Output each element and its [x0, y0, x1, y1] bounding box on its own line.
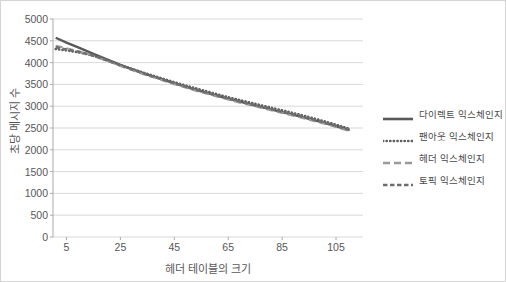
legend-item-label: 헤더 익스체인지 — [419, 154, 485, 164]
x-axis-title: 헤더 테이블의 크기 — [53, 260, 363, 276]
y-axis-tick-label: 4500 — [25, 35, 48, 47]
series-lines — [53, 19, 363, 237]
legend-item[interactable]: 토픽 익스체인지 — [383, 170, 506, 192]
y-axis-tick-label: 3000 — [25, 100, 48, 112]
y-axis-title: 초당 메시지 수 — [6, 56, 22, 186]
x-axis-tick-label: 5 — [64, 241, 70, 253]
series-line — [56, 47, 350, 129]
x-axis-tick-label: 65 — [222, 241, 234, 253]
legend-item[interactable]: 다이렉트 익스체인지 — [383, 104, 506, 126]
legend-item[interactable]: 헤더 익스체인지 — [383, 148, 506, 170]
y-axis-tick-label: 3500 — [25, 78, 48, 90]
chart-legend: 다이렉트 익스체인지팬아웃 익스체인지헤더 익스체인지토픽 익스체인지 — [383, 104, 506, 192]
y-axis-tick-label: 500 — [30, 209, 48, 221]
plot-area — [53, 19, 363, 237]
legend-item-label: 다이렉트 익스체인지 — [419, 110, 503, 120]
legend-swatch-line-icon — [383, 132, 413, 142]
x-axis-tick-label: 25 — [115, 241, 127, 253]
x-axis-tick-label: 105 — [327, 241, 345, 253]
legend-swatch-line-icon — [383, 110, 413, 120]
legend-swatch-line-icon — [383, 154, 413, 164]
legend-swatch-line-icon — [383, 176, 413, 186]
y-axis-tick-label: 2000 — [25, 144, 48, 156]
legend-item-label: 팬아웃 익스체인지 — [419, 132, 494, 142]
x-axis-tick-labels: 525456585105 — [53, 241, 363, 257]
x-axis-tick-label: 85 — [276, 241, 288, 253]
y-axis-tick-label: 1000 — [25, 187, 48, 199]
y-axis-tick-label: 0 — [42, 231, 48, 243]
y-axis-tick-label: 1500 — [25, 166, 48, 178]
legend-item[interactable]: 팬아웃 익스체인지 — [383, 126, 506, 148]
chart-figure: 0500100015002000250030003500400045005000… — [0, 0, 506, 282]
y-axis-tick-label: 5000 — [25, 13, 48, 25]
y-axis-tick-label: 4000 — [25, 57, 48, 69]
y-axis-tick-label: 2500 — [25, 122, 48, 134]
legend-item-label: 토픽 익스체인지 — [419, 176, 485, 186]
x-axis-tick-label: 45 — [168, 241, 180, 253]
